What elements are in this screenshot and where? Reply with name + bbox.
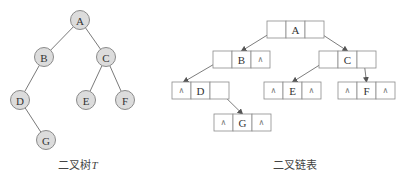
linked-list-pointers — [184, 28, 367, 115]
cell-right — [210, 82, 229, 99]
binary-tree-diagram: ABCDEFG AB∧C∧D∧E∧∧F∧∧G∧ — [0, 0, 403, 171]
tree-caption-text: 二叉树 — [58, 159, 91, 171]
list-node-C: C — [319, 51, 376, 68]
null-pointer-icon: ∧ — [383, 86, 389, 95]
tree-edge-A-B — [51, 27, 74, 50]
tree-edges — [25, 27, 122, 132]
null-pointer-icon: ∧ — [179, 86, 185, 95]
tree-node-A: A — [71, 11, 90, 30]
tree-node-G: G — [37, 131, 56, 150]
cell-data-label: D — [197, 85, 205, 97]
list-node-F: ∧F∧ — [338, 82, 395, 99]
node-label: C — [102, 52, 109, 64]
null-pointer-icon: ∧ — [309, 86, 315, 95]
list-node-E: ∧E∧ — [264, 82, 321, 99]
tree-node-C: C — [97, 48, 116, 67]
tree-node-B: B — [35, 48, 54, 67]
tree-edge-D-G — [25, 108, 41, 132]
null-pointer-icon: ∧ — [345, 86, 351, 95]
tree-edge-C-F — [110, 66, 121, 92]
cell-right — [357, 51, 376, 68]
node-label: B — [40, 52, 47, 64]
cell-left — [213, 51, 232, 68]
list-node-G: ∧G∧ — [214, 114, 271, 131]
cell-data-label: B — [238, 54, 245, 66]
list-node-D: ∧D — [172, 82, 229, 99]
tree-edge-C-E — [90, 66, 102, 92]
null-pointer-icon: ∧ — [221, 118, 227, 127]
cell-data-label: G — [239, 117, 247, 129]
tree-caption: 二叉树T — [58, 156, 97, 171]
tree-node-F: F — [116, 91, 135, 110]
list-node-A: A — [267, 21, 324, 38]
cell-left — [319, 51, 338, 68]
node-label: A — [76, 15, 84, 27]
node-label: E — [83, 95, 90, 107]
linked-list-nodes: AB∧C∧D∧E∧∧F∧∧G∧ — [172, 21, 395, 131]
cell-right — [305, 21, 324, 38]
cell-data-label: F — [363, 85, 369, 97]
cell-data-label: C — [344, 54, 351, 66]
cell-left — [267, 21, 286, 38]
node-label: G — [42, 135, 50, 147]
node-label: F — [122, 95, 128, 107]
cell-data-label: E — [289, 85, 296, 97]
cell-data-label: A — [292, 24, 300, 36]
null-pointer-icon: ∧ — [259, 118, 265, 127]
tree-node-E: E — [77, 91, 96, 110]
tree-caption-variable: T — [91, 159, 97, 171]
tree-edge-A-C — [85, 28, 100, 49]
tree-node-D: D — [11, 91, 30, 110]
null-pointer-icon: ∧ — [258, 55, 264, 64]
linked-list-caption: 二叉链表 — [273, 156, 317, 171]
list-node-B: B∧ — [213, 51, 270, 68]
node-label: D — [16, 95, 24, 107]
null-pointer-icon: ∧ — [271, 86, 277, 95]
tree-edge-B-D — [25, 65, 40, 91]
